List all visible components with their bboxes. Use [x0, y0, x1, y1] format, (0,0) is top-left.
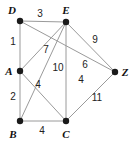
vertex-dot-c: [63, 118, 69, 124]
edge-weight-d-e: 3: [37, 9, 43, 19]
edges-group: [20, 21, 115, 121]
edge-c-z: [66, 72, 115, 121]
edge-weight-a-c: 4: [78, 75, 84, 85]
vertex-label-z: Z: [122, 67, 129, 78]
vertex-label-e: E: [62, 5, 69, 16]
graph-canvas: [0, 0, 133, 142]
edge-weight-a-e: 7: [43, 45, 49, 55]
edge-weight-b-c: 4: [39, 126, 45, 136]
weighted-graph-figure: 3124107449611DEABCZ: [0, 0, 133, 142]
vertex-dot-d: [17, 18, 23, 24]
edge-weight-b-e: 4: [35, 80, 41, 90]
edge-weight-c-z: 11: [92, 93, 102, 103]
vertex-dot-e: [63, 19, 69, 25]
vertex-label-b: B: [9, 129, 16, 140]
vertices-group: [17, 18, 118, 124]
vertex-dot-z: [112, 69, 118, 75]
vertex-dot-b: [17, 118, 23, 124]
vertex-label-c: C: [62, 129, 69, 140]
edge-weight-a-b: 2: [10, 92, 16, 102]
edge-a-c: [20, 71, 66, 121]
edge-d-z: [20, 21, 115, 72]
edge-d-e: [20, 21, 66, 22]
edge-weight-e-c: 10: [52, 63, 63, 73]
edge-e-z: [66, 22, 115, 72]
vertex-label-d: D: [8, 5, 16, 16]
vertex-dot-a: [17, 68, 23, 74]
vertex-label-a: A: [5, 66, 12, 77]
edge-weight-d-z: 9: [92, 35, 98, 45]
edge-weight-d-a: 1: [10, 37, 16, 47]
edge-weight-e-z: 6: [82, 60, 88, 70]
